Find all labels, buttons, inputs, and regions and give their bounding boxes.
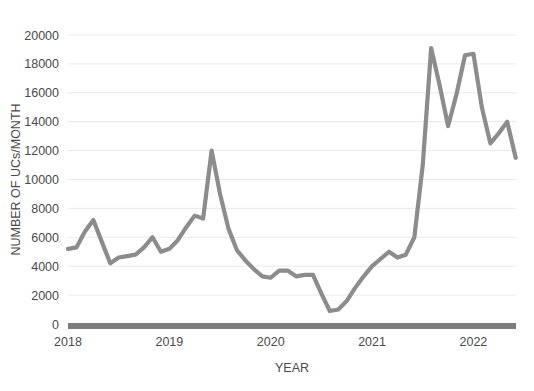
x-tick-label: 2020 — [257, 335, 285, 349]
y-tick-label: 14000 — [24, 115, 59, 129]
y-axis-title: NUMBER OF UCs/MONTH — [9, 103, 23, 255]
y-tick-label: 4000 — [31, 260, 59, 274]
y-tick-label: 6000 — [31, 231, 59, 245]
y-tick-label: 2000 — [31, 289, 59, 303]
x-tick-label: 2018 — [54, 335, 82, 349]
y-tick-label: 12000 — [24, 144, 59, 158]
y-tick-label: 18000 — [24, 57, 59, 71]
x-tick-label: 2021 — [358, 335, 386, 349]
y-tick-label: 8000 — [31, 202, 59, 216]
chart-background — [0, 0, 534, 391]
y-tick-label: 10000 — [24, 173, 59, 187]
chart-container: 0200040006000800010000120001400016000180… — [0, 0, 534, 391]
y-tick-label: 20000 — [24, 29, 59, 43]
y-tick-label: 0 — [52, 318, 59, 332]
x-tick-label: 2022 — [460, 335, 488, 349]
line-chart: 0200040006000800010000120001400016000180… — [0, 0, 534, 391]
y-tick-label: 16000 — [24, 86, 59, 100]
x-axis-title: YEAR — [275, 361, 309, 375]
x-tick-label: 2019 — [155, 335, 183, 349]
